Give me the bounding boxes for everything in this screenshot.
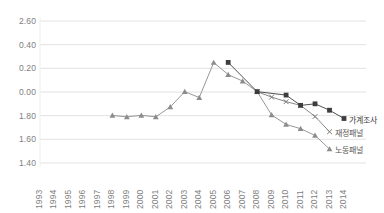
x-axis-tick-label: 2004 xyxy=(193,190,203,209)
x-axis-tick-label: 1996 xyxy=(77,190,87,209)
series-label-square: 가계조사 xyxy=(349,114,377,125)
x-axis-tick-label: 2014 xyxy=(338,190,348,209)
x-axis-tick-label: 1994 xyxy=(48,190,58,209)
x-axis-tick-label: 2009 xyxy=(266,190,276,209)
x-axis-tick-label: 1998 xyxy=(106,190,116,209)
x-axis-tick-label: 2001 xyxy=(150,190,160,209)
x-axis-tick-label: 2003 xyxy=(179,190,189,209)
x-axis-tick-label: 2005 xyxy=(208,190,218,209)
x-axis-tick-label: 2007 xyxy=(237,190,247,209)
x-axis-tick-label: 1995 xyxy=(63,190,73,209)
x-axis-tick-label: 2002 xyxy=(164,190,174,209)
x-axis-tick-label: 1999 xyxy=(121,190,131,209)
x-axis-tick-label: 2011 xyxy=(295,190,305,209)
x-axis: 1993199419951996199719981999200020012002… xyxy=(0,0,384,213)
chart-container: 2.600.400.200.001.801.601.40 19931994199… xyxy=(0,0,384,213)
x-axis-tick-label: 2012 xyxy=(309,190,319,209)
series-label-x: 재정패널 xyxy=(335,127,363,138)
series-label-triangle: 노동패널 xyxy=(335,144,363,155)
x-axis-tick-label: 2008 xyxy=(251,190,261,209)
x-axis-tick-label: 2000 xyxy=(135,190,145,209)
x-axis-tick-label: 2010 xyxy=(280,190,290,209)
x-axis-tick-label: 2006 xyxy=(222,190,232,209)
x-axis-tick-label: 2013 xyxy=(324,190,334,209)
x-axis-tick-label: 1997 xyxy=(92,190,102,209)
x-axis-tick-label: 1993 xyxy=(34,190,44,209)
